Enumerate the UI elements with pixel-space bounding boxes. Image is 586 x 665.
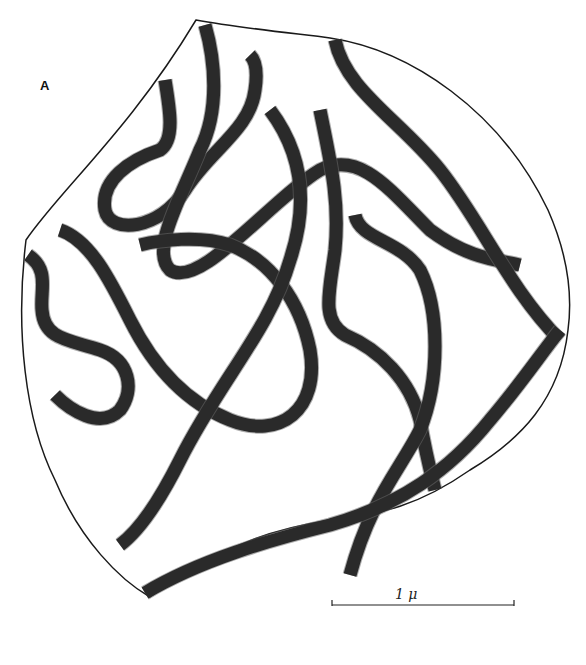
nucleus-diagram (0, 0, 586, 665)
scale-bar (332, 600, 514, 606)
scale-bar-label: 1 μ (395, 586, 417, 602)
chromosome-strands (28, 25, 560, 593)
